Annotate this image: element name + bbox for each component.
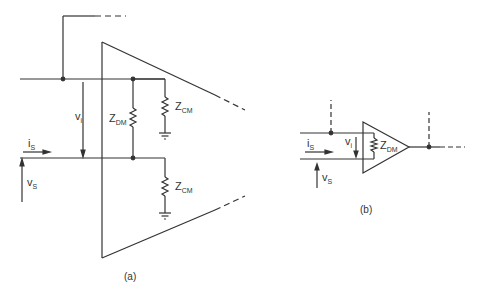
label-zcm-top-a: ZCM <box>175 100 193 114</box>
figure-a <box>20 16 245 258</box>
resistor-zdm-b <box>371 133 377 159</box>
label-vi-b: vi <box>345 135 353 149</box>
resistor-zcm-bottom-a <box>159 158 171 219</box>
amp-a-top-side-dashed <box>215 95 245 110</box>
junction-dot <box>329 131 333 135</box>
amp-a-top-side <box>102 42 215 95</box>
label-zdm-b: ZDM <box>380 139 398 153</box>
resistor-zcm-top-a <box>133 79 171 139</box>
label-zcm-bottom-a: ZCM <box>175 180 193 194</box>
junction-dot <box>61 77 65 81</box>
arrow-vi-b <box>354 137 358 157</box>
caption-a: (a) <box>124 271 136 282</box>
arrow-vs-a <box>20 159 24 202</box>
ground-icon <box>159 213 171 219</box>
caption-b: (b) <box>360 204 372 215</box>
amp-a-bottom-side <box>102 210 215 258</box>
label-vs-a: vS <box>27 176 38 190</box>
ground-icon <box>159 133 171 139</box>
label-vi-a: vi <box>75 110 83 124</box>
arrow-is-a <box>23 150 50 154</box>
label-zdm-a: ZDM <box>109 112 127 126</box>
label-vs-b: vS <box>322 171 333 185</box>
amp-a-bottom-side-dashed <box>215 196 245 210</box>
circuit-diagram: vi iS vS ZDM ZCM ZCM (a) vi iS vS ZDM (b… <box>0 0 478 293</box>
resistor-zdm-a <box>130 79 136 158</box>
label-is-a: iS <box>28 137 35 151</box>
label-is-b: iS <box>307 137 314 151</box>
junction-dot <box>427 145 431 149</box>
arrow-vs-b <box>315 164 319 188</box>
